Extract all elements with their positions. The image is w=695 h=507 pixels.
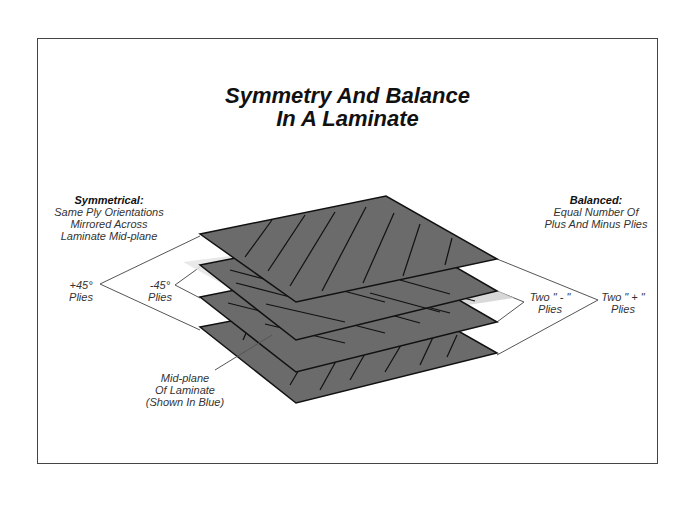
symmetrical-line-2: Mirrored Across — [42, 218, 176, 230]
plus45-callout: +45° Plies — [62, 279, 100, 303]
midplane-line-1: Mid-plane — [140, 372, 230, 384]
laminate-illustration — [0, 0, 695, 507]
two-plus-callout: Two " + " Plies — [599, 291, 647, 315]
minus45-label: -45° — [144, 279, 176, 291]
plus45-label: +45° — [62, 279, 100, 291]
two-plus-plies: Plies — [599, 303, 647, 315]
midplane-callout: Mid-plane Of Laminate (Shown In Blue) — [140, 372, 230, 408]
two-minus-callout: Two " - " Plies — [526, 291, 574, 315]
balanced-heading: Balanced: — [570, 194, 623, 206]
minus45-callout: -45° Plies — [144, 279, 176, 303]
balanced-line-1: Equal Number Of — [536, 206, 656, 218]
symmetrical-line-3: Laminate Mid-plane — [42, 230, 176, 242]
symmetrical-line-1: Same Ply Orientations — [42, 206, 176, 218]
balanced-note: Balanced: Equal Number Of Plus And Minus… — [536, 194, 656, 230]
plus45-plies: Plies — [62, 291, 100, 303]
minus45-plies: Plies — [144, 291, 176, 303]
two-minus-plies: Plies — [526, 303, 574, 315]
balanced-line-2: Plus And Minus Plies — [536, 218, 656, 230]
two-plus-label: Two " + " — [599, 291, 647, 303]
two-minus-label: Two " - " — [526, 291, 574, 303]
symmetrical-heading: Symmetrical: — [74, 194, 143, 206]
symmetrical-note: Symmetrical: Same Ply Orientations Mirro… — [42, 194, 176, 242]
midplane-line-3: (Shown In Blue) — [140, 396, 230, 408]
leader-lines-minus45 — [175, 267, 200, 298]
midplane-line-2: Of Laminate — [140, 384, 230, 396]
